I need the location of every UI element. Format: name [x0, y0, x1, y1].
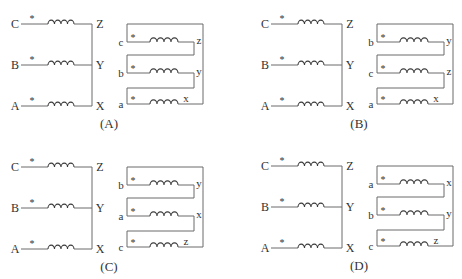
primary-end-terminal: Y [96, 201, 105, 215]
polarity-mark: * [30, 13, 35, 24]
secondary-start-terminal: b [368, 36, 374, 48]
secondary-winding-row: b*y [118, 175, 202, 191]
panel-caption: (D) [350, 258, 368, 273]
polarity-mark: * [30, 197, 35, 208]
polarity-mark: * [280, 54, 285, 65]
secondary-end-terminal: z [184, 235, 189, 247]
secondary-start-terminal: b [368, 209, 374, 221]
primary-start-terminal: B [11, 201, 19, 215]
primary-start-terminal: C [11, 160, 19, 174]
primary-start-terminal: B [261, 200, 269, 214]
polarity-mark: * [280, 196, 285, 207]
primary-start-terminal: A [11, 99, 20, 113]
coil-icon [48, 163, 74, 167]
primary-end-terminal: Y [346, 200, 355, 214]
delta-closing-wire [377, 24, 453, 104]
polarity-mark: * [131, 237, 136, 248]
coil-icon [400, 242, 428, 246]
polarity-mark: * [131, 63, 136, 74]
primary-winding-row: B*Y [261, 54, 355, 72]
polarity-mark: * [280, 237, 285, 248]
coil-icon [48, 245, 74, 249]
coil-icon [150, 69, 178, 73]
primary-winding-row: C*Z [261, 13, 354, 31]
coil-icon [400, 69, 428, 73]
polarity-mark: * [381, 205, 386, 216]
coil-icon [48, 61, 74, 65]
polarity-mark: * [280, 13, 285, 24]
polarity-mark: * [30, 156, 35, 167]
polarity-mark: * [131, 32, 136, 43]
coil-icon [48, 204, 74, 208]
coil-icon [400, 211, 428, 215]
primary-start-terminal: C [11, 17, 19, 31]
coil-icon [150, 38, 178, 42]
coil-icon [298, 203, 324, 207]
secondary-end-terminal: z [197, 34, 202, 46]
primary-start-terminal: B [11, 58, 19, 72]
secondary-start-terminal: c [369, 240, 374, 252]
secondary-end-terminal: z [447, 65, 452, 77]
panel-caption: (C) [100, 259, 117, 274]
secondary-delta-winding: b*ya*xc*z [118, 167, 203, 253]
secondary-winding-row: b*y [368, 205, 452, 221]
polarity-mark: * [381, 63, 386, 74]
coil-icon [150, 181, 178, 185]
secondary-end-terminal: x [433, 92, 439, 104]
secondary-delta-winding: b*yc*za*x [368, 24, 453, 110]
secondary-start-terminal: c [119, 241, 124, 253]
primary-start-terminal: C [261, 159, 269, 173]
secondary-winding-row: a*x [119, 206, 203, 222]
primary-star-winding: C*ZB*YA*X [261, 13, 355, 113]
panel-c: C*ZB*YA*Xb*ya*xc*z(C) [11, 156, 203, 274]
primary-winding-row: A*X [261, 95, 355, 113]
coil-icon [400, 100, 428, 104]
primary-winding-row: C*Z [11, 156, 104, 174]
coil-icon [48, 102, 74, 106]
delta-closing-wire [127, 167, 203, 247]
polarity-mark: * [381, 174, 386, 185]
secondary-start-terminal: a [369, 98, 374, 110]
secondary-start-terminal: c [119, 36, 124, 48]
panel-b: C*ZB*YA*Xb*yc*za*x(B) [261, 13, 453, 131]
coil-icon [298, 20, 324, 24]
secondary-end-terminal: z [434, 234, 439, 246]
primary-end-terminal: Y [346, 58, 355, 72]
secondary-end-terminal: y [446, 207, 452, 219]
secondary-end-terminal: y [446, 34, 452, 46]
secondary-end-terminal: x [196, 208, 202, 220]
primary-end-terminal: X [96, 99, 105, 113]
secondary-start-terminal: c [369, 67, 374, 79]
primary-winding-row: A*X [261, 237, 355, 255]
secondary-end-terminal: x [183, 92, 189, 104]
coil-icon [48, 20, 74, 24]
primary-winding-row: B*Y [11, 54, 105, 72]
primary-start-terminal: B [261, 58, 269, 72]
primary-star-winding: C*ZB*YA*X [11, 13, 105, 113]
coil-icon [298, 61, 324, 65]
polarity-mark: * [131, 206, 136, 217]
primary-star-winding: C*ZB*YA*X [261, 155, 355, 255]
secondary-winding-row: b*y [368, 32, 452, 48]
primary-winding-row: B*Y [11, 197, 105, 215]
coil-icon [298, 102, 324, 106]
delta-closing-wire [127, 24, 203, 104]
secondary-delta-winding: c*zb*ya*x [118, 24, 203, 110]
panel-caption: (B) [350, 116, 367, 131]
secondary-winding-row: b*y [118, 63, 202, 79]
primary-end-terminal: Z [96, 17, 103, 31]
primary-winding-row: B*Y [261, 196, 355, 214]
primary-end-terminal: Z [346, 159, 353, 173]
primary-start-terminal: A [261, 241, 270, 255]
secondary-end-terminal: y [196, 65, 202, 77]
secondary-end-terminal: x [446, 176, 452, 188]
panel-d: C*ZB*YA*Xa*xb*yc*z(D) [261, 155, 453, 273]
primary-end-terminal: X [96, 242, 105, 256]
primary-end-terminal: X [346, 99, 355, 113]
transformer-diagrams: C*ZB*YA*Xc*zb*ya*x(A) C*ZB*YA*Xb*yc*za*x… [0, 0, 462, 279]
secondary-winding-row: a*x [369, 92, 453, 110]
polarity-mark: * [381, 94, 386, 105]
polarity-mark: * [30, 238, 35, 249]
polarity-mark: * [30, 95, 35, 106]
primary-end-terminal: Z [346, 17, 353, 31]
